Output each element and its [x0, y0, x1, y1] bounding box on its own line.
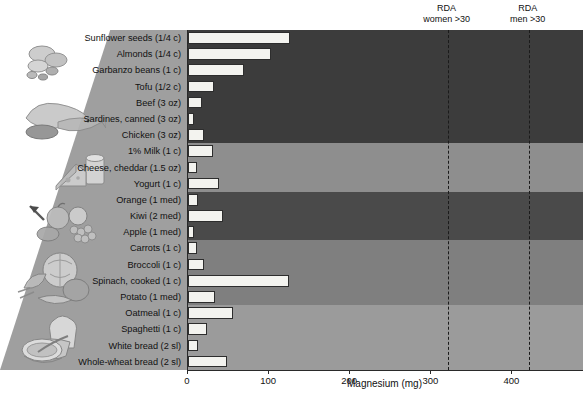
x-tick: [187, 370, 188, 374]
x-tick: [349, 370, 350, 374]
bar-rows: [188, 30, 583, 370]
bar-chicken-3-oz: [188, 129, 204, 141]
category-label: Almonds (1/4 c): [117, 46, 181, 62]
category-label: White bread (2 sl): [108, 338, 181, 354]
bar-cheese-cheddar-1-5-oz: [188, 162, 197, 174]
bar-sunflower-seeds-1-4-c: [188, 32, 290, 44]
x-axis-title: Magnesium (mg): [187, 378, 582, 389]
bar-1-milk-1-c: [188, 145, 213, 157]
x-tick: [268, 370, 269, 374]
category-label: Apple (1 med): [123, 224, 181, 240]
category-label: Sunflower seeds (1/4 c): [84, 30, 181, 46]
category-label: Spinach, cooked (1 c): [92, 273, 181, 289]
bar-orange-1-med: [188, 194, 198, 206]
category-label: Carrots (1 c): [130, 240, 181, 256]
rda-line-rda-men-30: [529, 30, 530, 370]
category-label: Sardines, canned (3 oz): [83, 111, 181, 127]
category-label: Yogurt (1 c): [134, 176, 181, 192]
category-label: 1% Milk (1 c): [128, 143, 181, 159]
bar-almonds-1-4-c: [188, 48, 271, 60]
rda-caption-line1: RDA: [402, 3, 492, 14]
category-label: Chicken (3 oz): [122, 127, 181, 143]
bar-tofu-1-2-c: [188, 81, 214, 93]
category-labels: Sunflower seeds (1/4 c)Almonds (1/4 c)Ga…: [0, 30, 185, 370]
category-label: Kiwi (2 med): [130, 208, 181, 224]
x-tick: [430, 370, 431, 374]
bar-yogurt-1-c: [188, 178, 219, 190]
bar-sardines-canned-3-oz: [188, 113, 194, 125]
bar-spinach-cooked-1-c: [188, 275, 289, 287]
bar-oatmeal-1-c: [188, 307, 233, 319]
rda-caption-line2: women >30: [402, 14, 492, 25]
rda-caption: RDAwomen >30: [402, 3, 492, 25]
rda-caption-line2: men >30: [483, 14, 573, 25]
rda-line-rda-women-30: [448, 30, 449, 370]
rda-caption-line1: RDA: [483, 3, 573, 14]
bar-spaghetti-1-c: [188, 323, 207, 335]
bar-carrots-1-c: [188, 242, 197, 254]
category-label: Potato (1 med): [120, 289, 181, 305]
bar-potato-1-med: [188, 291, 215, 303]
category-label: Broccoli (1 c): [127, 257, 181, 273]
bar-broccoli-1-c: [188, 259, 204, 271]
category-label: Beef (3 oz): [136, 95, 181, 111]
category-label: Cheese, cheddar (1.5 oz): [77, 160, 181, 176]
magnesium-food-sources-chart: Sunflower seeds (1/4 c)Almonds (1/4 c)Ga…: [0, 0, 588, 415]
category-label: Spaghetti (1 c): [121, 321, 181, 337]
bar-garbanzo-beans-1-c: [188, 64, 244, 76]
category-label: Garbanzo beans (1 c): [92, 62, 181, 78]
category-label: Orange (1 med): [116, 192, 181, 208]
x-tick: [511, 370, 512, 374]
rda-caption: RDAmen >30: [483, 3, 573, 25]
bar-kiwi-2-med: [188, 210, 223, 222]
bar-beef-3-oz: [188, 97, 202, 109]
category-label: Whole-wheat bread (2 sl): [78, 354, 181, 370]
category-label: Tofu (1/2 c): [135, 79, 181, 95]
category-label: Oatmeal (1 c): [125, 305, 181, 321]
bar-white-bread-2-sl: [188, 340, 198, 352]
bar-apple-1-med: [188, 226, 194, 238]
plot-area: [187, 30, 583, 371]
bar-whole-wheat-bread-2-sl: [188, 356, 227, 368]
